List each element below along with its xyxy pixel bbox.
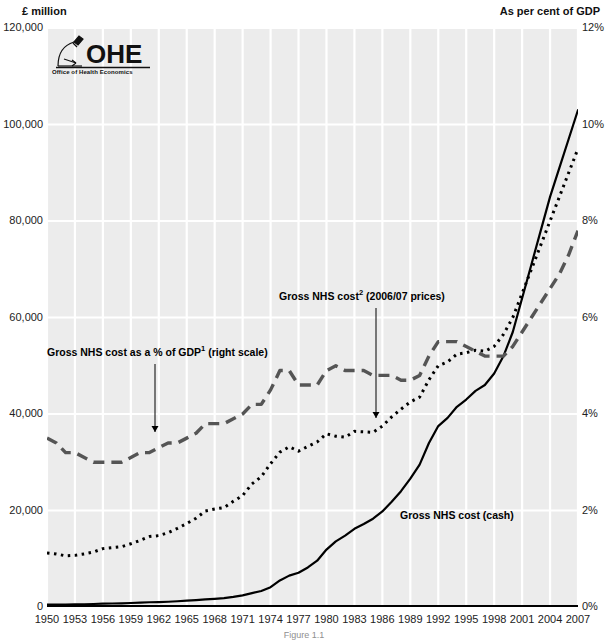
ohe-logo: OHE Office of Health Economics [52, 33, 152, 79]
y-axis-tick-right: 12% [582, 21, 608, 33]
x-axis-tick: 1962 [144, 613, 174, 625]
x-axis-tick: 1980 [311, 613, 341, 625]
y-axis-tick-right: 6% [582, 311, 608, 323]
x-axis-tick: 1956 [88, 613, 118, 625]
y-axis-tick-right: 2% [582, 504, 608, 516]
annotation-gdp-share: Gross NHS cost as a % of GDP1 (right sca… [47, 344, 268, 358]
right-axis-title: As per cent of GDP [500, 5, 600, 17]
annotation-cash-prefix: Gross NHS cost (cash) [400, 509, 514, 521]
annotation-gdp-share-prefix: Gross NHS cost as a % of GDP [47, 346, 201, 358]
y-axis-tick-right: 10% [582, 118, 608, 130]
x-axis-tick: 1953 [60, 613, 90, 625]
annotation-real-terms: Gross NHS cost2 (2006/07 prices) [279, 288, 445, 302]
y-axis-tick-left: 100,000 [0, 118, 43, 130]
figure-caption: Figure 1.1 [0, 630, 608, 640]
y-axis-tick-left: 60,000 [0, 311, 43, 323]
x-axis-tick: 1977 [284, 613, 314, 625]
y-axis-tick-left: 40,000 [0, 407, 43, 419]
y-axis-tick-right: 8% [582, 214, 608, 226]
x-axis-tick: 1965 [172, 613, 202, 625]
x-axis-tick: 1974 [256, 613, 286, 625]
ohe-logo-subtitle: Office of Health Economics [52, 69, 133, 75]
x-axis-tick: 2007 [563, 613, 593, 625]
chart-figure: £ million As per cent of GDP OHE Office … [0, 0, 608, 640]
x-axis-tick: 1968 [200, 613, 230, 625]
annotation-real-terms-prefix: Gross NHS cost [279, 290, 359, 302]
x-axis-tick: 1950 [32, 613, 62, 625]
y-axis-tick-left: 20,000 [0, 504, 43, 516]
x-axis-tick: 1986 [367, 613, 397, 625]
x-axis-tick: 1992 [423, 613, 453, 625]
x-axis-tick: 1971 [228, 613, 258, 625]
y-axis-tick-right: 4% [582, 407, 608, 419]
y-axis-tick-left: 120,000 [0, 21, 43, 33]
annotation-real-terms-suffix: (2006/07 prices) [363, 290, 445, 302]
y-axis-tick-left: 0 [0, 600, 43, 612]
ohe-logo-mark: OHE [52, 33, 152, 71]
x-axis-tick: 1998 [479, 613, 509, 625]
svg-text:OHE: OHE [86, 39, 142, 69]
annotation-gdp-share-suffix: (right scale) [205, 346, 267, 358]
x-axis-tick: 1995 [451, 613, 481, 625]
x-axis-tick: 1983 [339, 613, 369, 625]
annotation-cash: Gross NHS cost (cash) [400, 509, 514, 521]
x-axis-tick: 1959 [116, 613, 146, 625]
x-axis-tick: 2001 [507, 613, 537, 625]
x-axis-tick: 1989 [395, 613, 425, 625]
y-axis-tick-right: 0% [582, 600, 608, 612]
left-axis-title: £ million [22, 5, 67, 17]
x-axis-tick: 2004 [535, 613, 565, 625]
y-axis-tick-left: 80,000 [0, 214, 43, 226]
